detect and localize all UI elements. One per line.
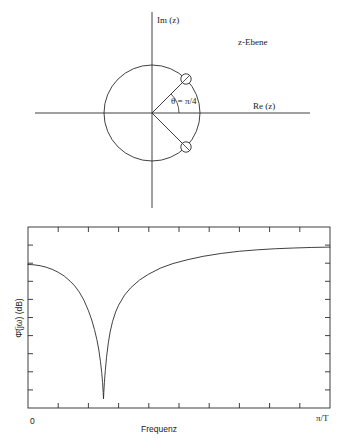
z-plane-diagram: Im (z) Re (z) z-Ebene θ = π/4: [0, 0, 345, 222]
y-axis-label: Φ̄(jω) (dB): [14, 298, 24, 338]
x-tick-label-start: 0: [30, 416, 35, 426]
angle-label: θ = π/4: [171, 96, 197, 106]
x-axis-label: Frequenz: [141, 424, 177, 434]
magnitude-curve: [28, 247, 330, 399]
z-plane-title: z-Ebene: [238, 37, 267, 47]
figure-container: Im (z) Re (z) z-Ebene θ = π/4 0 π/T Freq…: [0, 0, 345, 442]
radius-line-lower-zero: [152, 113, 186, 147]
imaginary-axis-label: Im (z): [157, 15, 179, 25]
magnitude-response-plot: 0 π/T Frequenz Φ̄(jω) (dB): [0, 222, 345, 442]
x-axis-ticks-top: [58, 227, 300, 232]
y-axis-ticks-right: [325, 245, 330, 390]
y-axis-ticks-left: [28, 245, 33, 390]
x-axis-ticks-bottom: [58, 403, 300, 408]
plot-frame: [28, 227, 330, 408]
real-axis-label: Re (z): [253, 101, 275, 111]
x-tick-label-end: π/T: [316, 413, 329, 423]
